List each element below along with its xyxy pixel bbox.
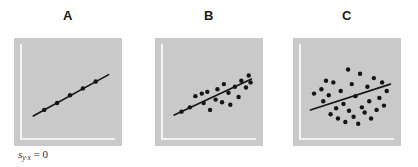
plot-svg-b: [155, 38, 263, 146]
data-point: [334, 106, 338, 110]
data-point: [236, 95, 240, 99]
data-point: [328, 112, 332, 116]
data-point: [324, 78, 328, 82]
data-point: [247, 73, 251, 77]
data-point: [350, 82, 354, 86]
data-point: [362, 110, 366, 114]
data-point: [377, 96, 381, 100]
data-point: [193, 94, 197, 98]
data-point: [374, 108, 378, 112]
data-point: [358, 72, 362, 76]
data-point: [215, 87, 219, 91]
data-point: [341, 102, 345, 106]
data-point: [205, 90, 209, 94]
standard-error-annotation: sy·x = 0: [18, 148, 48, 162]
data-point: [331, 80, 335, 84]
data-point: [244, 85, 248, 89]
panel-letter-c: C: [293, 8, 401, 23]
panel-letter-a: A: [14, 8, 122, 23]
regression-line-a: [33, 75, 108, 116]
scatter-panel-b: [155, 38, 263, 146]
data-point: [372, 76, 376, 80]
panel-letter-b: B: [155, 8, 263, 23]
data-point: [222, 82, 226, 86]
scatter-panel-c: [293, 38, 401, 146]
data-point: [356, 121, 360, 125]
data-point: [208, 108, 212, 112]
data-point: [220, 100, 224, 104]
data-point: [327, 93, 331, 97]
data-point: [200, 91, 204, 95]
data-point: [319, 87, 323, 91]
data-point: [321, 99, 325, 103]
data-point: [312, 91, 316, 95]
data-point: [351, 115, 355, 119]
data-point: [343, 120, 347, 124]
data-point: [382, 103, 386, 107]
data-point: [336, 116, 340, 120]
data-point: [369, 116, 373, 120]
scatter-panel-a: [14, 38, 122, 146]
annotation-subscript: y·x: [22, 153, 31, 162]
axis-lines-a: [21, 44, 115, 139]
data-point: [213, 97, 217, 101]
data-point: [228, 103, 232, 107]
annotation-equals: = 0: [31, 148, 48, 160]
plot-svg-c: [293, 38, 401, 146]
data-point: [360, 105, 364, 109]
data-point: [365, 85, 369, 89]
figure-standard-error-of-estimate: A B C sy·x = 0: [0, 0, 418, 167]
data-point: [380, 80, 384, 84]
data-point: [346, 67, 350, 71]
data-point: [339, 89, 343, 93]
data-point: [367, 99, 371, 103]
data-point: [385, 89, 389, 93]
plot-svg-a: [14, 38, 122, 146]
data-point: [347, 109, 351, 113]
